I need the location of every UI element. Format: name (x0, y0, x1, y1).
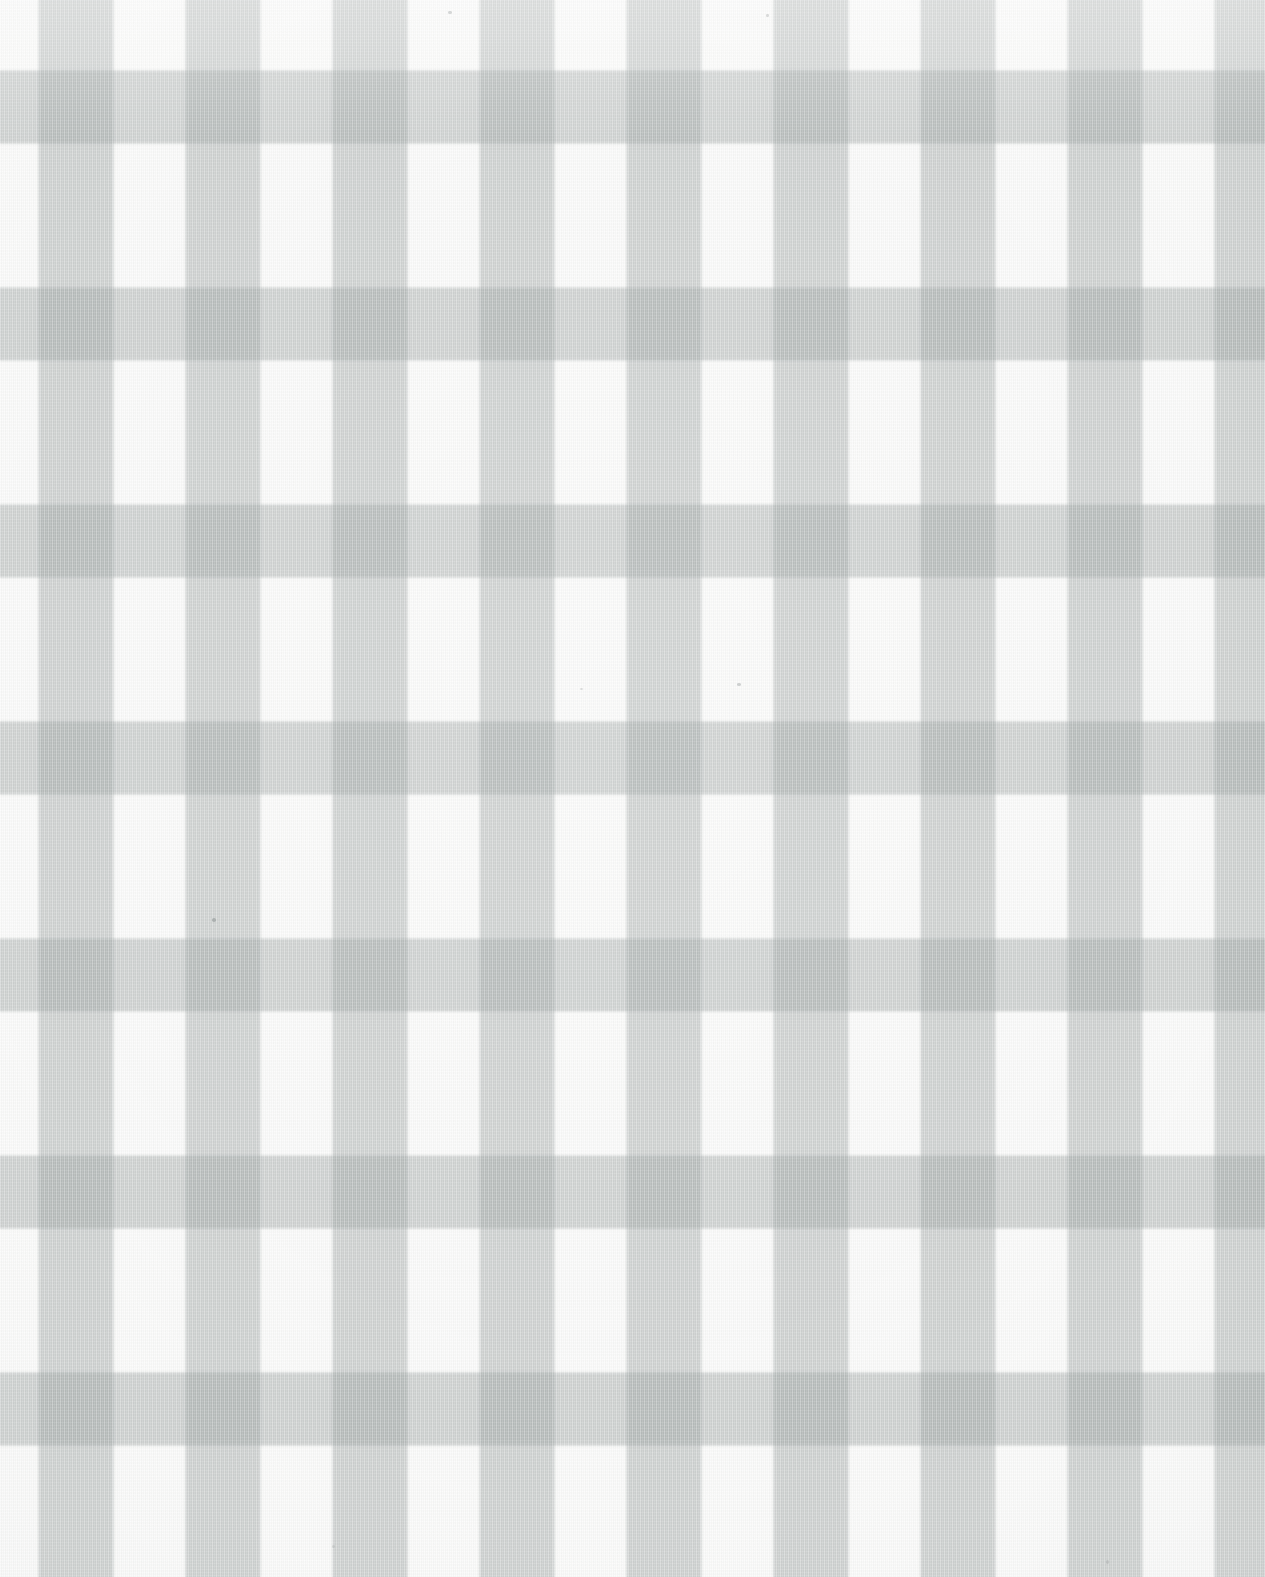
fabric-fleck (766, 14, 769, 17)
gingham-fabric-swatch: Close-up scan of a pale grey and white g… (0, 0, 1265, 1577)
fabric-fleck (332, 1545, 335, 1548)
warp-stripe-layer (0, 0, 1265, 1577)
swatch-description: Close-up scan of a pale grey and white g… (0, 0, 1, 1)
fabric-fleck (737, 683, 741, 686)
scan-vignette (0, 0, 1265, 1577)
weft-stripe-layer (0, 0, 1265, 1577)
top-sheen-highlight (0, 0, 1265, 150)
warp-thread-texture (0, 0, 1265, 1577)
fabric-fleck (212, 918, 216, 922)
weft-thread-texture (0, 0, 1265, 1577)
fabric-fleck (1106, 1560, 1109, 1564)
fabric-fleck (448, 11, 452, 14)
band-edge-softener (0, 0, 1265, 1577)
fabric-fleck (580, 688, 583, 690)
